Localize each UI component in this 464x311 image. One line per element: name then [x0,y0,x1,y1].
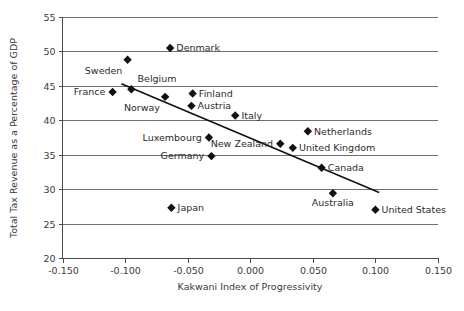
point-label-8: Netherlands [314,126,372,137]
point-label-12: Germany [161,150,205,161]
ytick-label-50: 50 [43,46,55,57]
point-label-10: New Zealand [211,138,273,149]
data-point-united-kingdom: United Kingdom [289,142,376,153]
point-label-3: France [74,86,106,97]
xtick-label-5: 0.100 [362,265,389,276]
xtick-label-2: -0.050 [173,265,204,276]
ytick-label-20: 20 [43,253,55,264]
xtick-label-3: 0.000 [237,265,264,276]
chart-canvas: 2025303540455055 -0.150-0.100-0.0500.000… [0,0,464,311]
ytick-label-35: 35 [43,150,55,161]
point-label-13: Canada [328,162,364,173]
x-axis-title: Kakwani Index of Progressivity [178,281,323,292]
ytick-label-45: 45 [43,81,55,92]
ytick-label-40: 40 [43,115,55,126]
point-label-4: Norway [124,102,160,113]
xtick-label-4: 0.050 [300,265,327,276]
point-label-7: Italy [241,110,262,121]
ytick-label-55: 55 [43,12,55,23]
point-label-0: Denmark [176,42,220,53]
data-point-netherlands: Netherlands [304,126,372,137]
ytick-label-30: 30 [43,184,55,195]
point-label-9: Luxembourg [143,132,202,143]
point-label-11: United Kingdom [299,142,375,153]
data-point-united-states: United States [371,204,446,215]
point-label-6: Austria [198,100,232,111]
ytick-label-25: 25 [43,219,55,230]
xtick-label-1: -0.100 [110,265,141,276]
point-label-15: United States [382,204,446,215]
point-label-1: Sweden [85,65,123,76]
point-label-16: Japan [177,202,205,213]
y-axis-title: Total Tax Revenue as a Percentage of GDP [8,38,19,239]
xtick-label-6: 0.150 [425,265,452,276]
xtick-label-0: -0.150 [48,265,79,276]
point-label-2: Belgium [138,73,177,84]
point-label-5: Finland [199,88,233,99]
scatter-chart-figure: 2025303540455055 -0.150-0.100-0.0500.000… [0,0,464,311]
point-label-14: Australia [312,197,354,208]
